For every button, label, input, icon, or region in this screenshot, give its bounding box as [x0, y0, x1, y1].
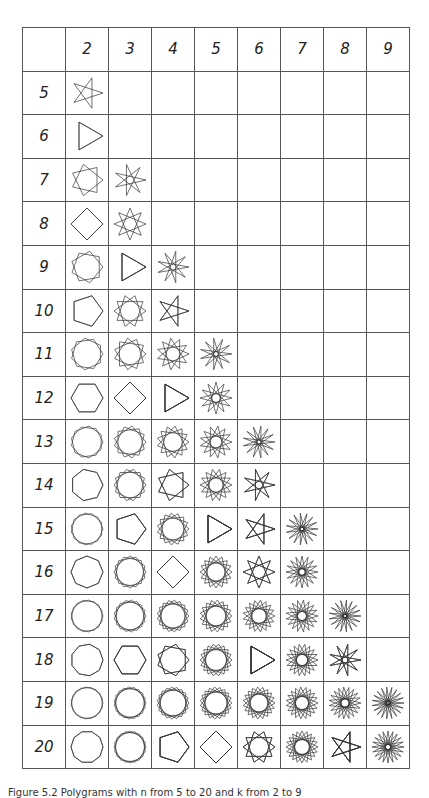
corner-cell — [23, 28, 66, 72]
polygram-cell — [281, 551, 324, 595]
polygram-cell — [152, 245, 195, 289]
polygram-19-8-icon — [326, 684, 364, 722]
figure-caption: Figure 5.2 Polygrams with n from 5 to 20… — [8, 787, 302, 798]
table-row: 13 — [23, 420, 410, 464]
polygram-cell — [66, 71, 109, 115]
polygram-15-5-icon — [197, 510, 235, 548]
polygram-cell — [281, 71, 324, 115]
row-header: 8 — [23, 202, 66, 246]
table-row: 17 — [23, 594, 410, 638]
polygram-13-2-icon — [68, 423, 106, 461]
polygram-cell — [66, 594, 109, 638]
polygram-18-3-icon — [111, 641, 149, 679]
row-header: 15 — [23, 507, 66, 551]
table-row: 15 — [23, 507, 410, 551]
polygram-cell — [367, 551, 410, 595]
polygram-cell — [281, 289, 324, 333]
polygram-11-5-icon — [197, 335, 235, 373]
polygram-cell — [195, 333, 238, 377]
polygram-cell — [281, 376, 324, 420]
polygram-9-3-icon — [111, 248, 149, 286]
polygram-cell — [238, 158, 281, 202]
polygram-cell — [367, 289, 410, 333]
polygram-cell — [195, 202, 238, 246]
polygram-16-7-icon — [283, 553, 321, 591]
polygram-19-3-icon — [111, 684, 149, 722]
polygram-7-2-icon — [68, 161, 106, 199]
polygram-16-3-icon — [111, 553, 149, 591]
polygram-17-3-icon — [111, 597, 149, 635]
polygram-cell — [109, 71, 152, 115]
row-header: 11 — [23, 333, 66, 377]
polygram-13-5-icon — [197, 423, 235, 461]
polygram-cell — [281, 507, 324, 551]
polygram-cell — [324, 551, 367, 595]
polygram-16-6-icon — [240, 553, 278, 591]
polygram-cell — [152, 551, 195, 595]
polygram-cell — [238, 551, 281, 595]
polygram-17-6-icon — [240, 597, 278, 635]
polygram-18-5-icon — [197, 641, 235, 679]
polygram-table: 23456789567891011121314151617181920 — [22, 27, 410, 769]
column-header: 4 — [152, 28, 195, 72]
polygram-cell — [324, 71, 367, 115]
polygram-cell — [238, 115, 281, 159]
polygram-11-4-icon — [154, 335, 192, 373]
polygram-8-3-icon — [111, 205, 149, 243]
polygram-cell — [324, 420, 367, 464]
polygram-20-3-icon — [111, 728, 149, 766]
polygram-19-7-icon — [283, 684, 321, 722]
polygram-cell — [152, 463, 195, 507]
polygram-10-2-icon — [68, 292, 106, 330]
polygram-cell — [109, 725, 152, 769]
polygram-cell — [109, 158, 152, 202]
polygram-cell — [152, 115, 195, 159]
polygram-cell — [66, 115, 109, 159]
row-header: 16 — [23, 551, 66, 595]
polygram-cell — [324, 289, 367, 333]
polygram-19-9-icon — [369, 684, 407, 722]
table-row: 10 — [23, 289, 410, 333]
polygram-cell — [195, 289, 238, 333]
polygram-cell — [109, 115, 152, 159]
polygram-cell — [324, 376, 367, 420]
polygram-16-4-icon — [154, 553, 192, 591]
polygram-19-5-icon — [197, 684, 235, 722]
column-header: 7 — [281, 28, 324, 72]
row-header: 10 — [23, 289, 66, 333]
polygram-cell — [238, 289, 281, 333]
polygram-cell — [281, 725, 324, 769]
table-row: 14 — [23, 463, 410, 507]
polygram-18-2-icon — [68, 641, 106, 679]
polygram-cell — [281, 681, 324, 725]
polygram-17-7-icon — [283, 597, 321, 635]
polygram-cell — [66, 725, 109, 769]
polygram-cell — [281, 245, 324, 289]
polygram-cell — [195, 594, 238, 638]
polygram-cell — [367, 158, 410, 202]
polygram-cell — [109, 202, 152, 246]
polygram-cell — [66, 333, 109, 377]
polygram-cell — [324, 681, 367, 725]
polygram-20-7-icon — [283, 728, 321, 766]
polygram-10-3-icon — [111, 292, 149, 330]
polygram-19-2-icon — [68, 684, 106, 722]
polygram-cell — [109, 681, 152, 725]
polygram-6-2-icon — [68, 117, 106, 155]
polygram-cell — [152, 594, 195, 638]
polygram-18-6-icon — [240, 641, 278, 679]
column-header: 2 — [66, 28, 109, 72]
row-header: 7 — [23, 158, 66, 202]
polygram-10-4-icon — [154, 292, 192, 330]
row-header: 12 — [23, 376, 66, 420]
polygram-20-9-icon — [369, 728, 407, 766]
polygram-cell — [109, 333, 152, 377]
polygram-cell — [281, 638, 324, 682]
table-row: 12 — [23, 376, 410, 420]
polygram-cell — [324, 115, 367, 159]
polygram-cell — [152, 681, 195, 725]
polygram-cell — [281, 115, 324, 159]
table-row: 11 — [23, 333, 410, 377]
polygram-cell — [238, 681, 281, 725]
polygram-cell — [324, 333, 367, 377]
